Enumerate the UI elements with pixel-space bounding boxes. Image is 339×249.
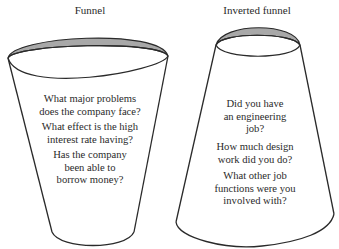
- inverted-funnel-shape: [176, 28, 334, 247]
- inverted-funnel-title: Inverted funnel: [215, 4, 299, 16]
- inverted-funnel-question-2: How much design work did you do?: [195, 141, 315, 166]
- funnel-question-1: What major problems does the company fac…: [30, 93, 150, 118]
- funnel-title: Funnel: [70, 4, 110, 16]
- inverted-funnel-question-1: Did you have an engineering job?: [195, 98, 315, 136]
- inverted-funnel-question-3: What other job functions were you involv…: [195, 170, 315, 208]
- funnel-question-2: What effect is the high interest rate ha…: [30, 121, 150, 146]
- funnel-question-3: Has the company been able to borrow mone…: [30, 149, 150, 187]
